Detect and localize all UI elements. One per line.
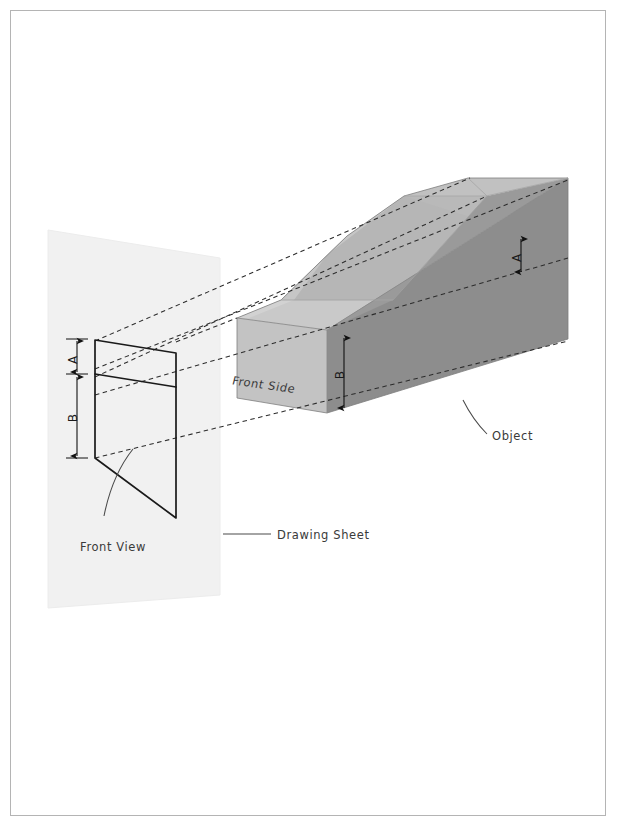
leader-object: [463, 400, 487, 434]
label-object: Object: [492, 429, 533, 443]
label-front-view: Front View: [80, 540, 146, 554]
dim-label-a-front-view: A: [66, 355, 80, 364]
diagram-page: A B A B Front Side Object Front View Dra…: [0, 0, 618, 827]
object-solid: [237, 178, 568, 413]
dim-label-b-front-view: B: [66, 414, 80, 422]
dim-label-a-object: A: [510, 253, 524, 262]
label-drawing-sheet: Drawing Sheet: [277, 528, 370, 542]
dim-label-b-object: B: [333, 371, 347, 379]
projection-diagram: A B A B Front Side Object Front View Dra…: [0, 0, 618, 827]
